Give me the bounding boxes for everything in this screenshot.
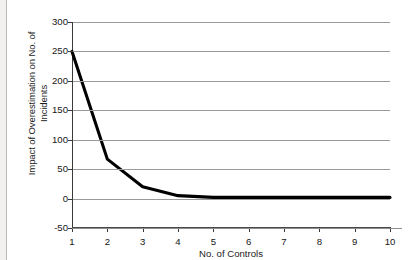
x-tick-label: 7 [273,237,295,247]
y-tick-mark [68,199,73,200]
y-tick-mark [68,81,73,82]
data-series-line [72,22,390,228]
y-tick-label: 50 [34,164,68,174]
x-tick-label: 9 [344,237,366,247]
plot-area [72,22,390,228]
y-tick-label: 100 [34,135,68,145]
y-axis-tick-labels: -50050100150200250300 [34,0,68,260]
x-tick-label: 8 [308,237,330,247]
gridline [72,51,390,52]
gridline [72,110,390,111]
y-tick-label: 0 [34,194,68,204]
x-tick-label: 2 [96,237,118,247]
gridline [72,199,390,200]
gridline [72,81,390,82]
gridline [72,169,390,170]
x-tick-label: 4 [167,237,189,247]
gridline [72,22,390,23]
line-chart-figure: Impact of Overestimation on No. of Incid… [0,0,409,260]
y-tick-label: 250 [34,46,68,56]
y-tick-mark [68,140,73,141]
y-tick-mark [68,51,73,52]
y-tick-label: 300 [34,17,68,27]
x-tick-label: 1 [61,237,83,247]
y-tick-mark [68,169,73,170]
y-tick-mark [68,110,73,111]
x-tick-label: 10 [379,237,401,247]
x-axis-band: No. of Controls 12345678910 [72,228,390,260]
x-tick-label: 3 [132,237,154,247]
y-tick-label: 200 [34,76,68,86]
x-tick-label: 6 [238,237,260,247]
gridline [72,140,390,141]
y-tick-label: 150 [34,105,68,115]
x-axis-title: No. of Controls [72,248,390,259]
y-tick-label: -50 [34,223,68,233]
y-tick-mark [68,22,73,23]
x-tick-label: 5 [202,237,224,247]
